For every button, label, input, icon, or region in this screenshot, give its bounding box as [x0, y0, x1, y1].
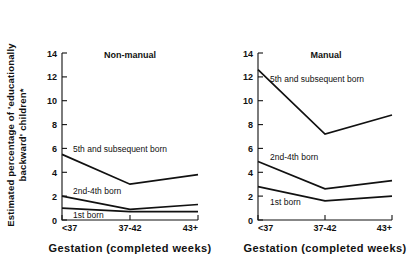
- panel-title-manual: Manual: [310, 50, 341, 60]
- y-axis-title-line1: Estimated percentage of 'educationally: [5, 43, 16, 227]
- x-cat-left-2: 43+: [183, 223, 198, 233]
- y-tick-right-14: 14: [243, 49, 253, 59]
- y-tick-right-12: 12: [243, 72, 253, 82]
- x-axis-title-right: Gestation (completed weeks): [243, 242, 406, 254]
- x-cat-right-0: <37: [258, 223, 273, 233]
- series-label-5th-and-subsequent-born-left: 5th and subsequent born: [73, 144, 167, 154]
- x-cat-left-1: 37-42: [118, 223, 141, 233]
- panel-title-non-manual: Non-manual: [104, 50, 156, 60]
- x-cat-right-1: 37-42: [313, 223, 336, 233]
- y-tick-left-12: 12: [47, 72, 57, 82]
- x-cat-left-0: <37: [62, 223, 77, 233]
- series-label-1st-born-left: 1st born: [73, 210, 104, 220]
- y-tick-left-6: 6: [52, 144, 57, 154]
- y-axis-title-line2: backward' children*: [17, 88, 28, 181]
- y-tick-left-10: 10: [47, 96, 57, 106]
- series-label-5th-and-subsequent-born-right: 5th and subsequent born: [270, 74, 364, 84]
- y-tick-right-8: 8: [248, 120, 253, 130]
- series-label-1st-born-right: 1st born: [270, 197, 301, 207]
- x-axis-title-left: Gestation (completed weeks): [48, 242, 211, 254]
- y-tick-left-2: 2: [52, 192, 57, 202]
- series-label-2nd-4th-born-right: 2nd-4th born: [270, 152, 318, 162]
- y-tick-left-4: 4: [52, 168, 57, 178]
- y-tick-left-0: 0: [52, 216, 57, 226]
- x-cat-right-2: 43+: [377, 223, 392, 233]
- two-panel-line-chart: Estimated percentage of 'educationally b…: [0, 0, 420, 269]
- y-tick-right-2: 2: [248, 192, 253, 202]
- y-tick-right-0: 0: [248, 216, 253, 226]
- y-tick-right-4: 4: [248, 168, 253, 178]
- y-tick-left-14: 14: [47, 49, 57, 59]
- y-tick-right-6: 6: [248, 144, 253, 154]
- y-tick-right-10: 10: [243, 96, 253, 106]
- series-label-2nd-4th-born-left: 2nd-4th born: [73, 186, 121, 196]
- figure-container: Estimated percentage of 'educationally b…: [0, 0, 420, 269]
- y-tick-left-8: 8: [52, 120, 57, 130]
